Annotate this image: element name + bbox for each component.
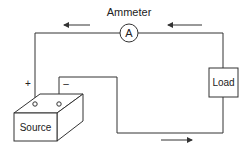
source-battery <box>14 94 83 141</box>
current-arrows <box>64 25 202 140</box>
load-label: Load <box>212 77 234 88</box>
ammeter: A <box>120 24 138 42</box>
ammeter-symbol: A <box>125 27 133 39</box>
load: Load <box>209 68 238 97</box>
negative-sign: – <box>63 78 69 89</box>
return-wire <box>59 77 223 133</box>
positive-sign: + <box>25 78 31 89</box>
top-wire <box>35 33 223 103</box>
negative-terminal <box>57 102 61 106</box>
positive-terminal <box>33 102 37 106</box>
circuit-diagram: Ammeter A Load + – Source <box>0 0 251 155</box>
source-label: Source <box>20 122 52 133</box>
ammeter-label: Ammeter <box>107 6 152 18</box>
